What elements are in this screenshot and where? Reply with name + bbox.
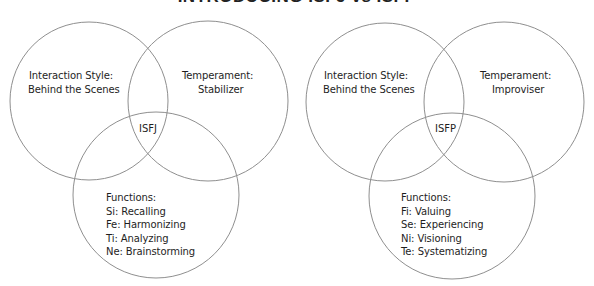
interaction-style-circle [10, 22, 168, 180]
isfj-interaction-style-label: Interaction Style: Behind the Scenes [28, 69, 120, 97]
interaction-style-heading: Interaction Style: [28, 69, 120, 83]
function-item: Ti: Analyzing [106, 232, 195, 246]
function-item: Ne: Brainstorming [106, 245, 195, 259]
functions-heading: Functions: [106, 191, 195, 205]
interaction-style-value: Behind the Scenes [323, 83, 415, 97]
functions-heading: Functions: [401, 191, 487, 205]
temperament-heading: Temperament: [182, 69, 253, 83]
isfp-temperament-label: Temperament: Improviser [480, 69, 551, 97]
function-item: Fi: Valuing [401, 205, 487, 219]
interaction-style-value: Behind the Scenes [28, 83, 120, 97]
isfj-temperament-label: Temperament: Stabilizer [182, 69, 253, 97]
function-item: Se: Experiencing [401, 218, 487, 232]
temperament-circle [424, 22, 584, 182]
isfj-functions-label: Functions: Si: Recalling Fe: Harmonizing… [106, 191, 195, 259]
function-item: Fe: Harmonizing [106, 218, 195, 232]
isfj-type-code: ISFJ [139, 123, 157, 135]
function-item: Ni: Visioning [401, 232, 487, 246]
temperament-value: Stabilizer [182, 83, 253, 97]
function-item: Si: Recalling [106, 205, 195, 219]
isfp-interaction-style-label: Interaction Style: Behind the Scenes [323, 69, 415, 97]
temperament-heading: Temperament: [480, 69, 551, 83]
isfp-functions-label: Functions: Fi: Valuing Se: Experiencing … [401, 191, 487, 259]
interaction-style-heading: Interaction Style: [323, 69, 415, 83]
temperament-circle [128, 21, 288, 181]
function-item: Te: Systematizing [401, 245, 487, 259]
venn-diagrams [0, 0, 594, 286]
temperament-value: Improviser [480, 83, 551, 97]
isfp-type-code: ISFP [435, 123, 456, 135]
interaction-style-circle [306, 23, 464, 181]
